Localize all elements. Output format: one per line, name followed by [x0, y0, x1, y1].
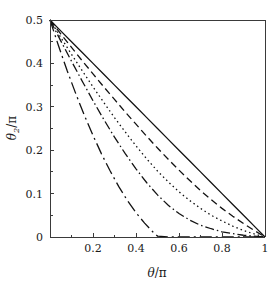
- line-chart: 0.20.40.60.81 00.10.20.30.40.5 θ/π θ2/π: [0, 0, 280, 288]
- x-tick-labels: 0.20.40.60.81: [84, 242, 268, 255]
- figure-container: 0.20.40.60.81 00.10.20.30.40.5 θ/π θ2/π: [0, 0, 280, 288]
- y-tick-labels: 00.10.20.30.40.5: [26, 14, 44, 244]
- x-tick-label: 0.4: [127, 242, 145, 255]
- x-tick-label: 0.6: [170, 242, 188, 255]
- y-tick-label: 0.2: [26, 144, 44, 157]
- x-axis-title-denominator: /π: [155, 266, 167, 280]
- x-tick-label: 1: [262, 242, 269, 255]
- x-tick-label: 0.8: [213, 242, 231, 255]
- y-axis-title-denominator: /π: [5, 116, 19, 128]
- y-tick-label: 0.4: [26, 57, 44, 70]
- y-tick-label: 0.5: [26, 14, 44, 27]
- x-axis-title: θ/π: [147, 266, 166, 280]
- y-tick-label: 0: [36, 231, 43, 244]
- x-tick-label: 0.2: [84, 242, 102, 255]
- y-tick-label: 0.3: [26, 101, 44, 114]
- y-tick-label: 0.1: [26, 188, 44, 201]
- y-axis-title: θ2/π: [5, 116, 21, 140]
